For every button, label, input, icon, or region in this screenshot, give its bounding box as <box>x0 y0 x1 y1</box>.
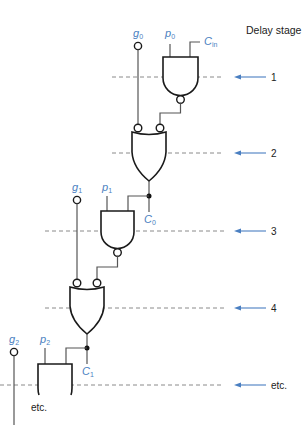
c1-to-nand-2-wire <box>66 348 87 364</box>
g1-label: g1 <box>72 181 82 194</box>
or-1-input-bubble-nand-icon <box>93 279 101 287</box>
nand-0-output-bubble-icon <box>177 96 185 104</box>
cin-label: Cin <box>204 35 218 48</box>
stage-marker-1: 1 <box>234 72 277 83</box>
p2-label: p2 <box>39 333 50 346</box>
stage-label: 3 <box>271 226 277 237</box>
bottom-etc-note: etc. <box>31 402 47 413</box>
or-gate-1 <box>70 287 104 334</box>
c0-label: C0 <box>144 213 156 226</box>
delay-stage-title: Delay stage <box>246 24 302 36</box>
stage-marker-2: 2 <box>234 148 277 159</box>
stage-label: 2 <box>271 148 277 159</box>
stage-marker-4: 4 <box>234 303 277 314</box>
nand-1-output-bubble-icon <box>114 249 122 257</box>
carry-ripple-delay-diagram: Delay stage 1 2 3 4 <box>0 0 307 433</box>
or-0-input-bubble-nand-icon <box>156 124 164 132</box>
arrowhead-icon <box>234 383 241 388</box>
c1-label: C1 <box>82 365 94 378</box>
stage-label: etc. <box>271 380 287 391</box>
g0-terminal-icon <box>134 42 141 49</box>
nand-gate-2-partial <box>38 364 72 395</box>
g0-label: g0 <box>133 27 143 40</box>
arrowhead-icon <box>234 229 241 234</box>
cin-wire <box>190 42 200 57</box>
arrowhead-icon <box>234 151 241 156</box>
p1-label: p1 <box>101 181 112 194</box>
c0-to-nand-1-wire <box>128 196 149 211</box>
arrowhead-icon <box>234 306 241 311</box>
g1-terminal-icon <box>73 196 80 203</box>
or-1-input-bubble-g1-icon <box>73 279 81 287</box>
stage-marker-3: 3 <box>234 226 277 237</box>
nand-gate-0 <box>163 57 198 96</box>
stage-label: 4 <box>271 303 277 314</box>
g2-label: g2 <box>9 333 19 346</box>
or-gate-0 <box>132 132 166 181</box>
g2-terminal-icon <box>10 348 17 355</box>
or-0-input-bubble-g0-icon <box>134 124 142 132</box>
stage-markers: 1 2 3 4 etc. <box>234 72 287 391</box>
nand-1-to-or-1-wire <box>97 256 118 279</box>
stage-marker-etc: etc. <box>234 380 287 391</box>
nand-gate-1 <box>101 211 134 248</box>
arrowhead-icon <box>234 75 241 80</box>
p0-label: p0 <box>164 27 175 40</box>
nand-0-to-or-0-wire <box>160 103 181 124</box>
stage-label: 1 <box>271 72 277 83</box>
